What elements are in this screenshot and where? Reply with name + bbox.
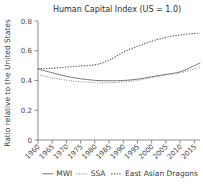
y-tick-label: 0.2 [21, 107, 32, 115]
x-axis-ticks: 1960196519701975198019851990199520002005… [24, 140, 199, 161]
y-tick-label: 0.6 [21, 47, 33, 55]
y-tick-label: 0.8 [21, 18, 32, 26]
x-tick-label: 2000 [137, 143, 155, 161]
x-tick-label: 2010 [166, 143, 184, 161]
y-tick-label: 0 [28, 137, 32, 145]
y-axis: 00.20.40.60.8 [21, 18, 38, 145]
x-tick-label: 1975 [66, 143, 84, 161]
chart-title: Human Capital Index (US = 1.0) [53, 5, 181, 14]
series-line-east-asian-dragons [38, 33, 200, 68]
legend-label-ssa: SSA [91, 169, 107, 178]
legend-label-mwi: MWI [56, 169, 72, 178]
legend-label-east-asian-dragons: East Asian Dragons [125, 169, 198, 178]
x-tick-label: 2015 [180, 143, 198, 161]
y-tick-label: 0.4 [21, 77, 33, 85]
x-tick-label: 1990 [109, 143, 127, 161]
x-tick-label: 1985 [95, 143, 113, 161]
x-tick-label: 1960 [24, 143, 42, 161]
human-capital-index-line-chart: Human Capital Index (US = 1.0) Ratio rel… [0, 0, 203, 190]
data-series-group [38, 33, 200, 83]
y-axis-ticks: 00.20.40.60.8 [21, 18, 38, 145]
chart-figure: Human Capital Index (US = 1.0) Ratio rel… [0, 0, 203, 190]
x-tick-label: 1980 [80, 143, 98, 161]
y-axis-title: Ratio relative to the United States [3, 19, 12, 147]
x-tick-label: 1995 [123, 143, 141, 161]
x-axis: 1960196519701975198019851990199520002005… [24, 140, 200, 161]
x-tick-label: 1970 [52, 143, 70, 161]
x-tick-label: 1965 [38, 143, 56, 161]
chart-legend: MWISSAEast Asian Dragons [42, 169, 198, 178]
series-line-mwi [38, 63, 200, 81]
x-tick-label: 2005 [152, 143, 170, 161]
